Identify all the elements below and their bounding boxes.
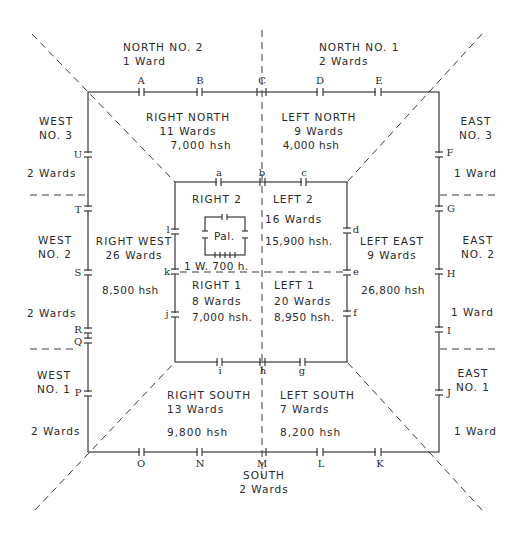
district-name: LEFT NORTH <box>281 110 356 124</box>
district-name: EAST <box>461 233 495 247</box>
left-east-household-count: 26,800 hsh <box>361 283 425 297</box>
district-east-no3: EAST NO. 3 <box>459 114 493 142</box>
gate-label-U: U <box>74 150 82 160</box>
district-name: NORTH NO. 1 <box>319 40 399 54</box>
district-left-east: LEFT EAST 9 Wards <box>360 234 424 262</box>
gate-label-T: T <box>75 205 82 215</box>
district-north-no1: NORTH NO. 1 2 Wards <box>319 40 399 68</box>
district-right-west: RIGHT WEST 26 Wards <box>96 234 172 262</box>
gate-label-j: j <box>165 309 168 319</box>
district-name: SOUTH <box>239 468 288 482</box>
gate-label-M: M <box>257 459 267 469</box>
ward-count: 20 Wards <box>274 294 335 308</box>
ward-count: 8 Wards <box>192 294 253 308</box>
ward-count: 7 Wards <box>280 402 355 416</box>
household-count: 15,900 hsh. <box>265 234 333 248</box>
city-district-diagram: NORTH NO. 2 1 Ward NORTH NO. 1 2 Wards W… <box>0 0 518 534</box>
gate-label-J: J <box>447 388 451 398</box>
district-right-north: RIGHT NORTH 11 Wards 7,000 hsh <box>144 110 231 152</box>
gate-label-Q: Q <box>74 337 82 347</box>
district-north-no2: NORTH NO. 2 1 Ward <box>123 40 203 68</box>
district-name: LEFT EAST <box>360 234 424 248</box>
gate-label-i: i <box>218 366 221 376</box>
east-no1-ward-count: 1 Ward <box>454 424 497 438</box>
gate-label-b: b <box>259 168 265 178</box>
gate-label-a: a <box>216 168 222 178</box>
district-number: NO. 3 <box>39 128 73 142</box>
district-number: NO. 2 <box>461 247 495 261</box>
district-name: WEST <box>38 233 72 247</box>
gate-label-C: C <box>258 76 266 86</box>
household-count: 7,000 hsh. <box>192 310 253 324</box>
gate-label-B: B <box>196 76 203 86</box>
east-no2-ward-count: 1 Ward <box>451 305 494 319</box>
ward-count: 11 Wards <box>144 124 231 138</box>
district-left-1: LEFT 1 20 Wards 8,950 hsh. <box>274 278 335 324</box>
gate-label-N: N <box>196 459 205 469</box>
district-name: NORTH NO. 2 <box>123 40 203 54</box>
west-no3-ward-count: 2 Wards <box>27 166 76 180</box>
gate-label-P: P <box>75 388 82 398</box>
ward-count: 1 Ward <box>123 54 203 68</box>
gate-label-A: A <box>137 76 144 86</box>
right-2-ward-household-count: 1 W. 700 h. <box>184 259 249 273</box>
gate-label-e: e <box>353 267 359 277</box>
ward-count: 13 Wards <box>167 402 251 416</box>
district-right-1: RIGHT 1 8 Wards 7,000 hsh. <box>192 278 253 324</box>
district-left-2: LEFT 2 16 Wards 15,900 hsh. <box>265 192 333 248</box>
district-right-2-name: RIGHT 2 <box>192 192 242 206</box>
district-name: EAST <box>456 366 490 380</box>
gate-label-f: f <box>353 308 357 318</box>
gate-label-S: S <box>75 268 82 278</box>
east-no3-ward-count: 1 Ward <box>454 166 497 180</box>
district-name: EAST <box>459 114 493 128</box>
gate-label-D: D <box>316 76 324 86</box>
gate-label-l: l <box>166 225 169 235</box>
district-name: RIGHT SOUTH <box>167 388 251 402</box>
district-number: NO. 2 <box>38 247 72 261</box>
district-number: NO. 1 <box>456 380 490 394</box>
district-name: LEFT SOUTH <box>280 388 355 402</box>
district-east-no2: EAST NO. 2 <box>461 233 495 261</box>
gate-label-L: L <box>318 459 325 469</box>
ward-count: 9 Wards <box>281 124 356 138</box>
gate-label-c: c <box>301 168 307 178</box>
gate-label-d: d <box>353 225 359 235</box>
district-name: LEFT 2 <box>265 192 333 206</box>
gate-label-K: K <box>376 459 383 469</box>
gate-label-G: G <box>447 204 455 214</box>
palace-label: Pal. <box>214 229 235 243</box>
ward-count: 16 Wards <box>265 212 333 226</box>
gate-label-R: R <box>74 325 82 335</box>
ward-count: 2 Wards <box>319 54 399 68</box>
ward-count: 2 Wards <box>239 482 288 496</box>
district-name: RIGHT WEST <box>96 234 172 248</box>
gate-label-O: O <box>137 459 145 469</box>
gate-label-g: g <box>299 366 305 376</box>
gate-label-I: I <box>447 326 451 336</box>
district-number: NO. 3 <box>459 128 493 142</box>
district-number: NO. 1 <box>37 382 71 396</box>
gate-label-F: F <box>447 148 454 158</box>
gate-label-k: k <box>164 267 170 277</box>
household-count: 7,000 hsh <box>144 138 231 152</box>
gate-label-h: h <box>260 366 266 376</box>
district-west-no1: WEST NO. 1 <box>37 368 71 396</box>
district-right-south: RIGHT SOUTH 13 Wards 9,800 hsh <box>167 388 251 439</box>
district-name: RIGHT NORTH <box>144 110 231 124</box>
district-east-no1: EAST NO. 1 <box>456 366 490 394</box>
household-count: 4,000 hsh <box>281 138 356 152</box>
ward-count: 9 Wards <box>360 248 424 262</box>
district-west-no2: WEST NO. 2 <box>38 233 72 261</box>
district-name: WEST <box>39 114 73 128</box>
household-count: 8,950 hsh. <box>274 310 335 324</box>
household-count: 9,800 hsh <box>167 425 251 439</box>
district-west-no3: WEST NO. 3 <box>39 114 73 142</box>
district-left-north: LEFT NORTH 9 Wards 4,000 hsh <box>281 110 356 152</box>
gate-label-E: E <box>375 76 382 86</box>
ward-count: 26 Wards <box>96 248 172 262</box>
gate-label-H: H <box>447 269 456 279</box>
district-name: LEFT 1 <box>274 278 335 292</box>
household-count: 8,200 hsh <box>280 425 355 439</box>
right-west-household-count: 8,500 hsh <box>102 283 159 297</box>
